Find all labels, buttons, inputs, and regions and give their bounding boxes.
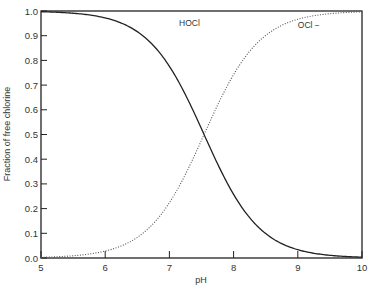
ocl-curve <box>41 12 362 257</box>
y-tick-label: 0.1 <box>25 228 38 239</box>
hocl-label: HOCl <box>179 18 200 28</box>
y-tick-label: 0.9 <box>25 30 38 41</box>
y-tick-label: 1.0 <box>25 6 38 17</box>
x-tick-label: 8 <box>231 262 236 273</box>
ocl-label: OCl − <box>298 20 320 30</box>
plot-frame <box>41 11 362 258</box>
y-tick-label: 0.0 <box>25 253 38 264</box>
x-tick-label: 7 <box>167 262 172 273</box>
y-tick-label: 0.3 <box>25 178 38 189</box>
x-tick-label: 10 <box>357 262 368 273</box>
y-tick-label: 0.2 <box>25 203 38 214</box>
y-tick-label: 0.8 <box>25 55 38 66</box>
x-tick-label: 9 <box>295 262 300 273</box>
y-axis-title: Fraction of free chlorine <box>2 87 12 182</box>
x-axis-title: pH <box>195 275 207 285</box>
x-tick-label: 6 <box>103 262 108 273</box>
x-tick-label: 5 <box>38 262 43 273</box>
y-tick-label: 0.4 <box>25 154 38 165</box>
y-tick-label: 0.5 <box>25 129 38 140</box>
data-curves <box>41 12 362 258</box>
series-labels: HOClOCl − <box>179 18 320 30</box>
y-tick-label: 0.7 <box>25 80 38 91</box>
hocl-curve <box>41 12 362 257</box>
plot-border <box>41 11 362 258</box>
chart: 56789100.00.10.20.30.40.50.60.70.80.91.0… <box>0 0 370 286</box>
axis-ticks: 56789100.00.10.20.30.40.50.60.70.80.91.0 <box>25 6 368 274</box>
y-tick-label: 0.6 <box>25 104 38 115</box>
